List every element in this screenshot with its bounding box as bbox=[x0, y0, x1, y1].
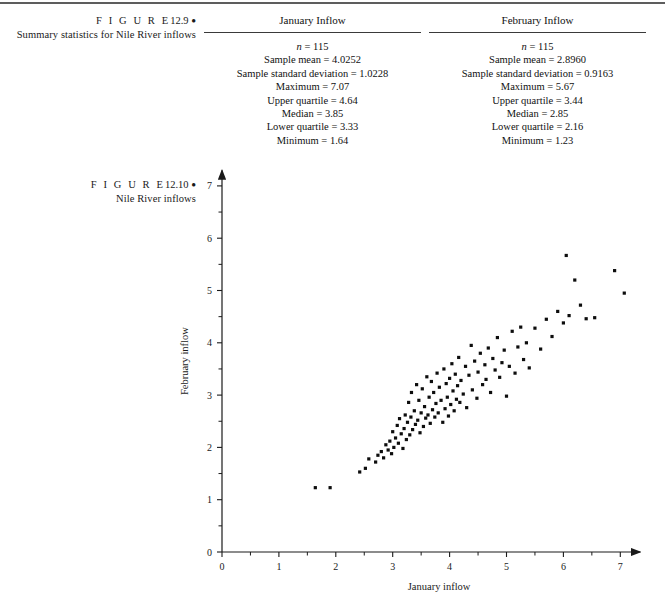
stats-row: Lower quartile = 3.33 bbox=[200, 120, 425, 133]
scatter-point bbox=[374, 460, 377, 463]
scatter-point bbox=[329, 486, 332, 489]
scatter-point bbox=[388, 440, 391, 443]
scatter-point bbox=[314, 486, 317, 489]
scatter-point bbox=[376, 454, 379, 457]
scatter-point bbox=[392, 446, 395, 449]
scatter-point bbox=[565, 254, 568, 257]
stats-row-value: = 7.07 bbox=[320, 81, 350, 92]
scatter-point bbox=[503, 349, 506, 352]
scatter-point bbox=[430, 380, 433, 383]
stats-row-label: Upper quartile bbox=[267, 95, 328, 106]
scatter-point bbox=[483, 363, 486, 366]
x-tick-label: 1 bbox=[276, 561, 281, 572]
scatter-point bbox=[447, 414, 450, 417]
scatter-point bbox=[358, 470, 361, 473]
stats-row-value: = 1.64 bbox=[319, 135, 349, 146]
scatter-point bbox=[494, 368, 497, 371]
stats-row: Sample mean = 2.8960 bbox=[425, 53, 650, 66]
scatter-point bbox=[562, 321, 565, 324]
scatter-point bbox=[481, 383, 484, 386]
scatter-point bbox=[425, 375, 428, 378]
y-tick-label: 5 bbox=[207, 285, 212, 296]
scatter-point bbox=[473, 360, 476, 363]
figure-12-10-number: 12.10 bbox=[165, 179, 189, 190]
stats-row-value: = 4.64 bbox=[328, 95, 358, 106]
scatter-point bbox=[434, 402, 437, 405]
scatter-point bbox=[448, 377, 451, 380]
scatter-point bbox=[446, 396, 449, 399]
scatter-point bbox=[479, 352, 482, 355]
scatter-point bbox=[396, 424, 399, 427]
scatter-point bbox=[414, 423, 417, 426]
scatter-point bbox=[458, 401, 461, 404]
stats-header-january: January Inflow bbox=[200, 12, 425, 32]
stats-row: Sample standard deviation = 1.0228 bbox=[200, 67, 425, 80]
stats-column-february: February Inflow n = 115 Sample mean = 2.… bbox=[425, 12, 650, 147]
scatter-point bbox=[391, 430, 394, 433]
scatter-point bbox=[556, 310, 559, 313]
scatter-point bbox=[437, 411, 440, 414]
x-tick-label: 5 bbox=[504, 561, 509, 572]
stats-rule-january bbox=[204, 32, 421, 33]
stats-row-label: Minimum bbox=[502, 135, 544, 146]
figure-12-10-label: F I G U R E bbox=[91, 179, 165, 190]
scatter-point bbox=[416, 419, 419, 422]
stats-row-value: = 3.85 bbox=[314, 108, 344, 119]
scatter-point bbox=[407, 401, 410, 404]
stats-row-label: Maximum bbox=[276, 81, 320, 92]
stats-row: Maximum = 7.07 bbox=[200, 80, 425, 93]
scatter-point bbox=[398, 417, 401, 420]
figure-12-9-caption: F I G U R E12.9 ● Summary statistics for… bbox=[0, 14, 196, 42]
stats-row-label: Lower quartile bbox=[267, 121, 329, 132]
scatter-point bbox=[433, 415, 436, 418]
scatter-point bbox=[489, 391, 492, 394]
scatter-point bbox=[432, 391, 435, 394]
scatter-point bbox=[533, 327, 536, 330]
x-tick-label: 3 bbox=[390, 561, 395, 572]
scatter-point bbox=[384, 443, 387, 446]
scatter-point bbox=[550, 335, 553, 338]
stats-row-label: Sample mean bbox=[264, 54, 321, 65]
stats-row-label: Maximum bbox=[501, 81, 545, 92]
scatter-point bbox=[454, 373, 457, 376]
x-tick-label: 4 bbox=[447, 561, 452, 572]
scatter-point bbox=[445, 382, 448, 385]
scatter-point bbox=[415, 383, 418, 386]
figure-12-10-caption: F I G U R E12.10 ● Nile River inflows bbox=[0, 178, 196, 205]
scatter-point bbox=[513, 372, 516, 375]
scatter-point bbox=[405, 438, 408, 441]
x-tick-label: 0 bbox=[220, 561, 225, 572]
scatter-point bbox=[410, 391, 413, 394]
stats-row-value: = 1.0228 bbox=[348, 68, 388, 79]
scatter-point bbox=[511, 330, 514, 333]
scatter-point bbox=[406, 421, 409, 424]
scatter-point bbox=[401, 447, 404, 450]
scatter-point bbox=[421, 387, 424, 390]
scatter-point bbox=[505, 395, 508, 398]
scatter-point bbox=[413, 409, 416, 412]
scatter-point bbox=[470, 344, 473, 347]
stats-row-value: = 5.67 bbox=[545, 81, 575, 92]
scatter-point bbox=[528, 366, 531, 369]
scatter-point bbox=[496, 336, 499, 339]
scatter-point bbox=[438, 386, 441, 389]
scatter-point bbox=[402, 427, 405, 430]
scatter-point bbox=[623, 292, 626, 295]
stats-column-january: January Inflow n = 115 Sample mean = 4.0… bbox=[200, 12, 425, 147]
scatter-point bbox=[464, 365, 467, 368]
stats-header-february: February Inflow bbox=[425, 12, 650, 32]
scatter-point bbox=[516, 345, 519, 348]
x-tick-label: 2 bbox=[333, 561, 338, 572]
stats-row-value: = 3.33 bbox=[329, 121, 359, 132]
scatter-point bbox=[487, 346, 490, 349]
scatter-point bbox=[471, 388, 474, 391]
scatter-point bbox=[500, 361, 503, 364]
stats-row: Lower quartile = 2.16 bbox=[425, 120, 650, 133]
scatter-point bbox=[498, 376, 501, 379]
scatter-point bbox=[397, 442, 400, 445]
y-tick-label: 6 bbox=[207, 233, 212, 244]
stats-row-value: = 2.85 bbox=[539, 108, 569, 119]
figure-12-9-label-line: F I G U R E12.9 ● bbox=[0, 14, 196, 28]
scatter-point bbox=[423, 405, 426, 408]
stats-row: Maximum = 5.67 bbox=[425, 80, 650, 93]
